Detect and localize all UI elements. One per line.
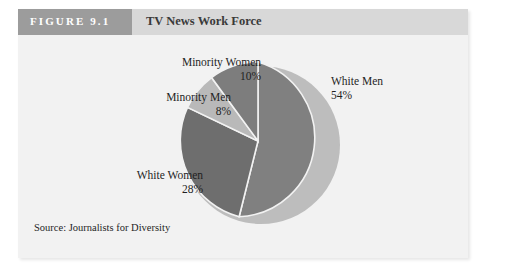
chart-area: Minority Women 10% Minority Men 8% White… <box>18 35 468 258</box>
pie-label-minority-women-percent: 10% <box>141 70 261 84</box>
pie-label-white-women: White Women 28% <box>83 169 203 196</box>
figure-header-band: FIGURE 9.1 TV News Work Force <box>18 9 468 35</box>
pie-label-white-men: White Men 54% <box>331 75 461 102</box>
pie-label-minority-women-name: Minority Women <box>182 56 261 68</box>
figure-number-label: FIGURE 9.1 <box>30 15 110 27</box>
pie-label-white-women-name: White Women <box>137 169 203 181</box>
pie-label-white-men-name: White Men <box>331 75 383 87</box>
pie-label-minority-men-percent: 8% <box>111 105 231 119</box>
pie-label-minority-women: Minority Women 10% <box>141 56 261 83</box>
figure-container: FIGURE 9.1 TV News Work Force Minority W… <box>18 9 468 258</box>
figure-number-tab: FIGURE 9.1 <box>18 9 132 35</box>
source-note: Source: Journalists for Diversity <box>34 222 170 233</box>
pie-label-minority-men: Minority Men 8% <box>111 91 231 118</box>
figure-title: TV News Work Force <box>146 14 262 29</box>
pie-label-white-women-percent: 28% <box>83 183 203 197</box>
pie-label-white-men-percent: 54% <box>331 89 461 103</box>
pie-label-minority-men-name: Minority Men <box>166 91 231 103</box>
